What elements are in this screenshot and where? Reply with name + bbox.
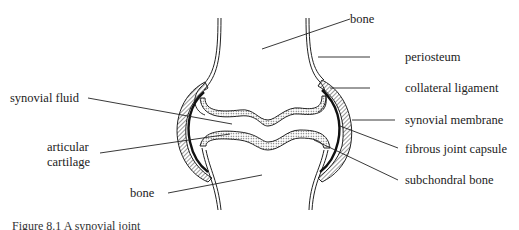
upper-bone — [195, 18, 326, 115]
label-collateral-ligament: collateral ligament — [405, 81, 498, 95]
label-fibrous-joint-capsule: fibrous joint capsule — [405, 142, 507, 156]
label-synovial-fluid: synovial fluid — [10, 91, 79, 105]
leader-lines — [88, 19, 398, 193]
label-subchondral-bone: subchondral bone — [405, 173, 494, 187]
label-articular-cartilage-line1: articular — [47, 140, 89, 154]
label-articular-cartilage-line2: cartilage — [47, 155, 90, 169]
label-synovial-membrane: synovial membrane — [405, 113, 503, 127]
lower-bone — [202, 148, 328, 210]
label-periosteum: periosteum — [405, 50, 461, 64]
figure-caption: Figure 8.1 A synovial joint — [12, 219, 140, 230]
lower-articular-cartilage — [200, 130, 330, 150]
label-bone-bottom: bone — [130, 186, 154, 200]
label-bone-top: bone — [350, 12, 374, 26]
